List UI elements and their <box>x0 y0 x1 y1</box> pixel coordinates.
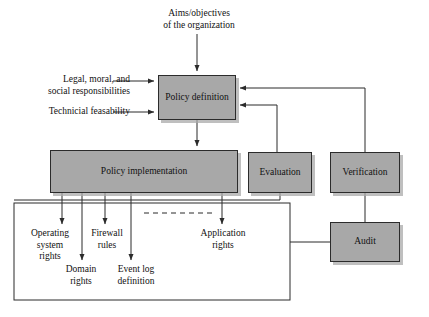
label-operating-system-rights: Operating system rights <box>24 228 76 263</box>
diagram-canvas: Aims/objectives of the organization Lega… <box>0 0 429 317</box>
label-legal-moral-social-responsibilities: Legal, moral, and social responsibilitie… <box>8 74 130 97</box>
label-firewall-rules: Firewall rules <box>84 228 130 251</box>
node-evaluation-label: Evaluation <box>257 167 302 179</box>
node-policy-implementation[interactable]: Policy implementation <box>50 150 238 193</box>
node-audit[interactable]: Audit <box>330 222 400 262</box>
edge-implementation-to-evaluation-bus <box>14 193 280 200</box>
label-aims-objectives: Aims/objectives of the organization <box>141 8 257 31</box>
label-application-rights: Application rights <box>190 228 256 251</box>
label-technicial-feasability: Technicial feasability <box>8 106 130 118</box>
node-audit-label: Audit <box>352 236 378 248</box>
label-event-log-definition: Event log definition <box>108 264 164 287</box>
node-policy-implementation-label: Policy implementation <box>99 166 189 178</box>
node-evaluation[interactable]: Evaluation <box>248 152 312 193</box>
edge-evaluation-to-policy-definition <box>240 105 277 152</box>
label-domain-rights: Domain rights <box>56 264 106 287</box>
node-policy-definition[interactable]: Policy definition <box>158 75 236 120</box>
node-verification[interactable]: Verification <box>330 152 400 193</box>
node-policy-definition-label: Policy definition <box>163 92 231 104</box>
node-verification-label: Verification <box>341 167 390 179</box>
edge-verification-to-policy-definition <box>240 88 365 152</box>
